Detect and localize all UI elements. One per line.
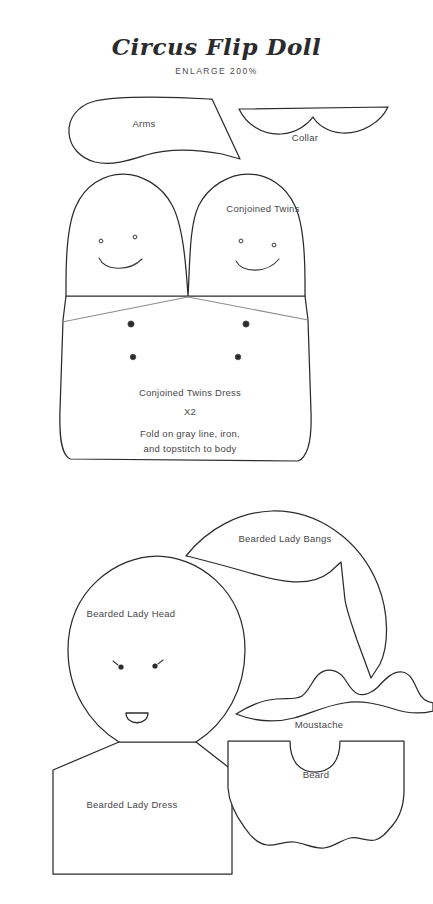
bearded-lady-left-eye (118, 664, 123, 669)
piece-moustache[interactable]: Moustache (236, 670, 433, 730)
bearded-lady-bangs-label: Bearded Lady Bangs (238, 533, 331, 544)
pattern-sheet: Circus Flip Doll ENLARGE 200% Arms Colla… (0, 0, 433, 904)
piece-arms[interactable]: Arms (69, 97, 240, 163)
arms-label: Arms (132, 118, 155, 129)
beard-outline (228, 741, 404, 848)
bearded-lady-head-dress-outline (53, 556, 245, 874)
conjoined-twins-dress-quantity: X2 (184, 406, 196, 417)
dress-button (243, 321, 249, 327)
conjoined-twins-dress-instruction-1: Fold on gray line, iron, (140, 428, 240, 439)
arms-outline (69, 97, 240, 163)
piece-collar[interactable]: Collar (239, 107, 388, 143)
conjoined-twins-dress-label: Conjoined Twins Dress (139, 387, 241, 398)
collar-label: Collar (292, 132, 318, 143)
piece-conjoined-twins[interactable]: Conjoined Twins (60, 174, 311, 461)
dress-button (235, 354, 241, 360)
conjoined-twins-dress-instruction-2: and topstitch to body (144, 443, 237, 454)
bearded-lady-head-label: Bearded Lady Head (87, 608, 176, 619)
bearded-lady-dress-label: Bearded Lady Dress (86, 799, 177, 810)
dress-button (130, 354, 136, 360)
pattern-canvas: Arms Collar (0, 0, 433, 904)
moustache-label: Moustache (295, 719, 344, 730)
piece-beard[interactable]: Beard (228, 741, 404, 848)
conjoined-twins-label: Conjoined Twins (226, 203, 299, 214)
conjoined-twins-outline (60, 174, 311, 461)
moustache-outline (236, 670, 433, 721)
bearded-lady-right-eye (152, 663, 157, 668)
dress-button (128, 321, 134, 327)
beard-label: Beard (303, 769, 330, 780)
piece-bearded-lady[interactable]: Bearded Lady Head Bearded Lady Dress (53, 556, 245, 874)
collar-outline (239, 107, 388, 134)
